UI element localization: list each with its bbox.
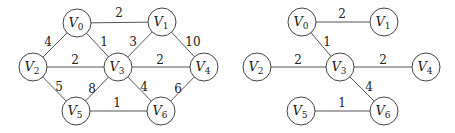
edge-weight-label: 10 bbox=[185, 35, 200, 49]
minimum-spanning-tree: 212241V0V1V2V3V4V5V6 bbox=[243, 7, 440, 125]
node-v6: V6 bbox=[147, 97, 175, 125]
node-v6: V6 bbox=[370, 97, 398, 125]
node-v2: V2 bbox=[19, 53, 47, 81]
node-v4: V4 bbox=[190, 53, 218, 81]
node-v3: V3 bbox=[326, 53, 354, 81]
node-v0: V0 bbox=[63, 9, 91, 37]
edge-weight-label: 2 bbox=[294, 53, 302, 67]
edge-weight-label: 1 bbox=[100, 35, 108, 49]
edge-weight-label: 3 bbox=[129, 35, 137, 49]
edge-weight-label: 2 bbox=[115, 6, 123, 20]
node-v3: V3 bbox=[104, 53, 132, 81]
node-v1: V1 bbox=[370, 8, 398, 36]
edge-weight-label: 6 bbox=[174, 82, 182, 96]
edge-weight-label: 8 bbox=[88, 82, 96, 96]
node-v1: V1 bbox=[148, 8, 176, 36]
edge-weight-label: 4 bbox=[365, 80, 373, 94]
edge-weight-label: 2 bbox=[338, 7, 346, 21]
edge-weight-label: 1 bbox=[338, 96, 346, 110]
edge-weight-label: 2 bbox=[379, 53, 387, 67]
node-v4: V4 bbox=[412, 53, 440, 81]
node-v5: V5 bbox=[287, 97, 315, 125]
edge-weight-label: 1 bbox=[323, 35, 331, 49]
node-v0: V0 bbox=[288, 8, 316, 36]
edge-weight-label: 5 bbox=[55, 80, 63, 94]
edge-weight-label: 1 bbox=[113, 96, 121, 110]
node-v2: V2 bbox=[243, 53, 271, 81]
node-v5: V5 bbox=[62, 97, 90, 125]
edge-weight-label: 2 bbox=[156, 53, 164, 67]
original-graph: 2413102258461V0V1V2V3V4V5V6 bbox=[19, 6, 218, 125]
edge-weight-label: 4 bbox=[140, 80, 148, 94]
edge-weight-label: 2 bbox=[71, 53, 79, 67]
graph-diagram-canvas: 2413102258461V0V1V2V3V4V5V6212241V0V1V2V… bbox=[0, 0, 455, 133]
edge-weight-label: 4 bbox=[44, 35, 52, 49]
